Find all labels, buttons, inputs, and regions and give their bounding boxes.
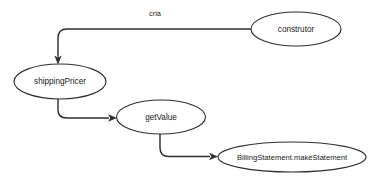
edge-construtor-to-shippingpricer[interactable]: cria	[54, 9, 251, 65]
node-makestatement-label: BillingStatement.makeStatement	[237, 153, 348, 162]
edge-getvalue-to-makestatement-line	[160, 134, 210, 157]
edge-shippingpricer-to-getvalue[interactable]	[58, 99, 117, 122]
arrowhead-into-getvalue	[108, 114, 117, 121]
edge-shippingpricer-to-getvalue-line	[58, 99, 109, 118]
node-shippingpricer[interactable]: shippingPricer	[14, 64, 106, 99]
call-graph-diagram: cria construtor shippingPricer getValue	[0, 0, 375, 185]
diagram-canvas: cria construtor shippingPricer getValue	[0, 0, 375, 185]
node-makestatement[interactable]: BillingStatement.makeStatement	[218, 142, 366, 172]
node-construtor[interactable]: construtor	[251, 12, 341, 46]
node-getvalue-label: getValue	[145, 113, 177, 122]
edge-construtor-to-shippingpricer-line	[58, 29, 251, 58]
arrowhead-into-makestatement	[209, 153, 218, 160]
node-construtor-label: construtor	[278, 25, 315, 34]
node-getvalue[interactable]: getValue	[117, 100, 206, 134]
edge-getvalue-to-makestatement[interactable]	[160, 134, 218, 160]
node-shippingpricer-label: shippingPricer	[34, 77, 86, 86]
edge-label-cria: cria	[149, 9, 162, 18]
